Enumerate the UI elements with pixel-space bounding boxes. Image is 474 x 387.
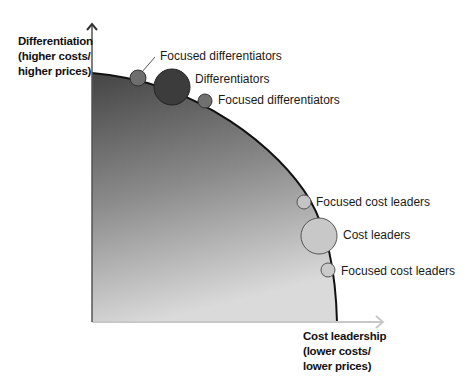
y-axis-label: Differentiation (higher costs/ higher pr… <box>18 34 93 79</box>
focused-differentiator-marker <box>198 94 212 108</box>
x-axis-label-line: lower prices) <box>303 359 386 374</box>
differentiator-marker <box>154 69 190 105</box>
point-label: Focused cost leaders <box>316 195 430 209</box>
leader-line <box>142 57 155 72</box>
x-axis-label: Cost leadership (lower costs/ lower pric… <box>303 329 386 374</box>
x-axis-label-line: (lower costs/ <box>303 344 386 359</box>
x-axis-label-line: Cost leadership <box>303 329 386 344</box>
point-label: Cost leaders <box>343 228 410 242</box>
point-label: Focused differentiators <box>218 93 340 107</box>
y-axis-label-line: higher prices) <box>18 64 93 79</box>
point-label: Focused cost leaders <box>341 264 455 278</box>
cost-leader-marker <box>301 218 337 254</box>
y-axis-label-line: (higher costs/ <box>18 49 93 64</box>
y-axis-label-line: Differentiation <box>18 34 93 49</box>
focused-cost-leader-marker <box>297 195 311 209</box>
focused-differentiator-marker <box>130 70 146 86</box>
point-label: Focused differentiators <box>160 49 282 63</box>
point-label: Differentiators <box>195 72 269 86</box>
focused-cost-leader-marker <box>321 263 335 277</box>
